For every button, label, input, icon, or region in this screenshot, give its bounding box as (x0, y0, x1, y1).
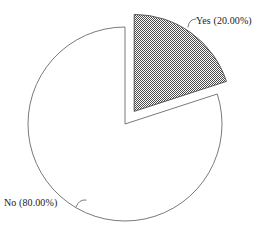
pie-label-no: No (80.00%) (4, 197, 57, 209)
pie-chart-canvas (0, 0, 268, 226)
leader-line-yes (188, 19, 196, 27)
pie-chart-figure: Yes (20.00%) No (80.00%) (0, 0, 268, 226)
pie-label-yes: Yes (20.00%) (196, 15, 252, 27)
